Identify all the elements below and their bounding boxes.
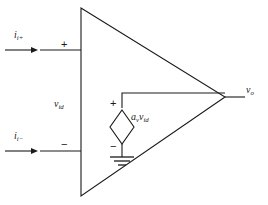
output-voltage-label: vo [246,85,254,97]
differential-voltage-label: vid [54,99,64,111]
input-plus-sign: + [61,39,67,50]
dependent-source-voltage-subscript: id [143,116,148,123]
input-current-plus-label: ii+ [14,30,23,42]
input-current-minus-subscript: i− [17,135,23,142]
amplifier-triangle [81,8,225,196]
source-minus-sign: − [110,141,116,152]
differential-voltage-subscript: id [58,103,63,110]
ground-icon [110,157,134,165]
input-arrow-minus-icon [5,148,38,154]
source-plus-sign: + [110,98,116,109]
output-voltage-subscript: o [250,89,253,96]
input-arrow-plus-icon [5,47,38,53]
dependent-source-label: avvid [131,112,149,124]
opamp-diagram: ii+ ii− vid avvid vo + − + − [0,0,268,205]
input-current-plus-subscript: i+ [17,34,23,41]
input-current-minus-label: ii− [14,131,23,143]
source-to-output-wire [122,93,225,108]
input-minus-sign: − [61,139,67,150]
circuit-schematic [0,0,268,205]
